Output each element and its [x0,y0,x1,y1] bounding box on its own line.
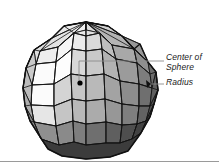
callout-label-center-of-sphere: Center of Sphere [166,53,202,72]
figure-bottom-rule [0,161,219,162]
center-dot-marker [77,80,82,85]
callout-label-center-of-sphere-line2: Sphere [166,63,202,73]
callout-label-radius: Radius [166,78,193,88]
sphere-diagram-figure: Center of Sphere Radius [0,0,219,162]
callout-label-radius-line1: Radius [166,78,193,88]
sphere-faceted-body [23,22,158,159]
